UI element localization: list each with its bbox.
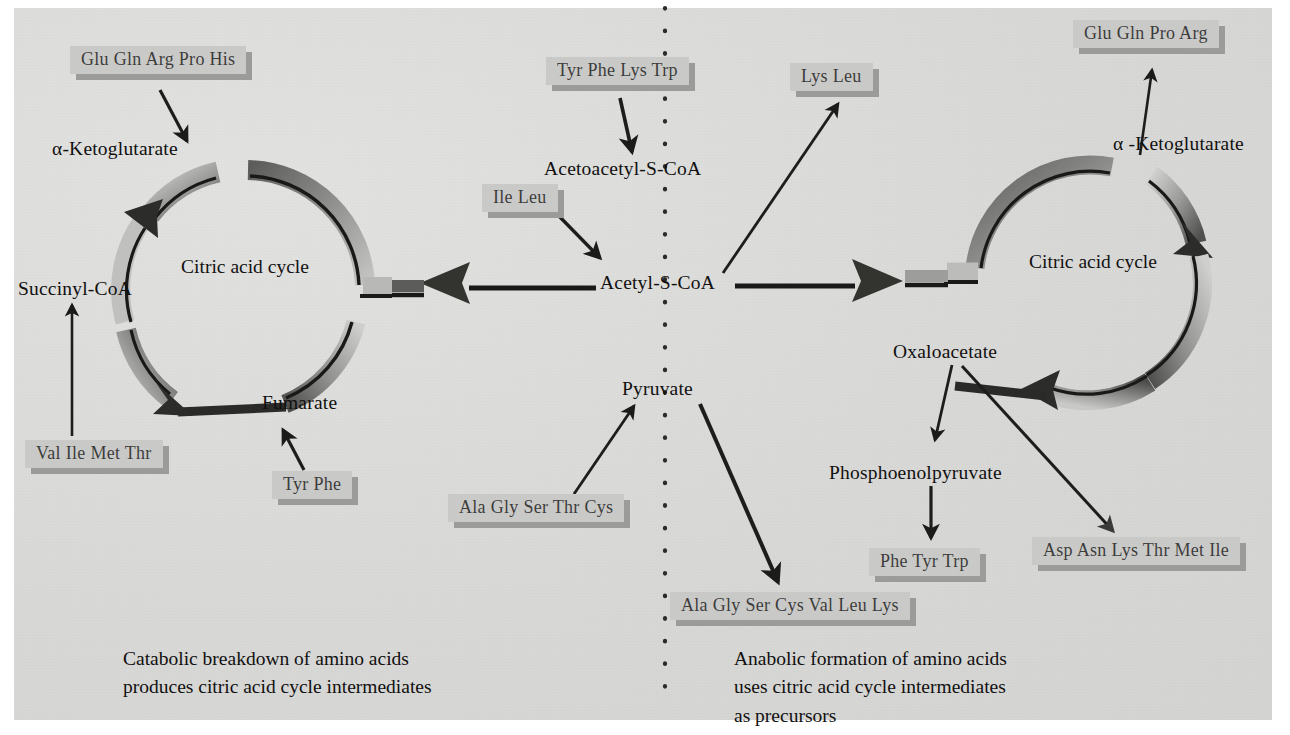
right-cycle-label: Citric acid cycle	[1013, 250, 1173, 273]
left-citric-acid-cycle-ring	[121, 170, 392, 416]
left-caption: Catabolic breakdown of amino acids produ…	[123, 645, 432, 702]
diagram-vector-layer	[0, 0, 1290, 735]
right-citric-acid-cycle-ring	[944, 165, 1213, 410]
arrow-oxaloacetate-to-phosphoenolpyruvate	[935, 365, 952, 440]
tag-tyr-phe-lys-trp[interactable]: Tyr Phe Lys Trp	[546, 57, 689, 85]
tag-val-ile-met-thr[interactable]: Val Ile Met Thr	[25, 440, 163, 468]
metabolite-succinyl-coa: Succinyl-CoA	[18, 278, 132, 300]
right-caption: Anabolic formation of amino acids uses c…	[734, 645, 1007, 730]
metabolite-fumarate: Fumarate	[262, 392, 337, 414]
metabolite-ketoglutarate-right: α -Ketoglutarate	[1113, 133, 1244, 155]
figure-root: α-Ketoglutarate Succinyl-CoA Fumarate Ci…	[0, 0, 1290, 735]
metabolite-pyruvate: Pyruvate	[622, 378, 693, 400]
arrow-acetylscoa-to-lysleu	[723, 104, 838, 273]
arrow-gluglnargprohis-to-ketoglutarate	[160, 90, 187, 141]
left-cycle-label: Citric acid cycle	[165, 255, 325, 278]
metabolite-ketoglutarate-left: α-Ketoglutarate	[52, 138, 178, 160]
tag-ile-leu[interactable]: Ile Leu	[482, 184, 558, 212]
tag-asp-asn-lys-thr-met-ile[interactable]: Asp Asn Lys Thr Met Ile	[1032, 537, 1240, 565]
arrow-ileleu-to-acetylscoa	[555, 212, 600, 258]
arrow-alaglyserthrcys-to-pyruvate	[574, 406, 634, 494]
metabolite-phosphoenolpyruvate: Phosphoenolpyruvate	[829, 462, 1002, 484]
tag-tyr-phe[interactable]: Tyr Phe	[272, 471, 352, 499]
tag-ala-gly-ser-thr-cys[interactable]: Ala Gly Ser Thr Cys	[448, 494, 624, 522]
metabolite-oxaloacetate: Oxaloacetate	[893, 341, 997, 363]
tag-glu-gln-pro-arg[interactable]: Glu Gln Pro Arg	[1073, 20, 1219, 48]
tag-glu-gln-arg-pro-his[interactable]: Glu Gln Arg Pro His	[70, 46, 246, 74]
arrow-tyrphelystrp-to-acetoacetylscoa	[620, 98, 632, 152]
tag-lys-leu[interactable]: Lys Leu	[790, 63, 873, 91]
metabolite-acetoacetyl-s-coa: Acetoacetyl-S-CoA	[544, 158, 701, 180]
arrow-pyruvate-to-alaglysercysvalleulys	[700, 404, 778, 582]
arrow-tyrphe-to-fumarate	[283, 430, 304, 470]
tag-ala-gly-ser-cys-val-leu-lys[interactable]: Ala Gly Ser Cys Val Leu Lys	[670, 592, 910, 620]
metabolite-acetyl-s-coa: Acetyl-S-CoA	[600, 272, 715, 294]
tag-phe-tyr-trp[interactable]: Phe Tyr Trp	[869, 548, 980, 576]
